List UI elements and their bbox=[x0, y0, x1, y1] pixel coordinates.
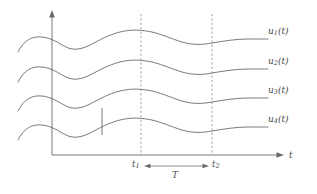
curve-label-u2-arg: (t) bbox=[278, 56, 289, 66]
curve-label-u3-arg: (t) bbox=[278, 85, 289, 95]
curve-label-u4: u4(t) bbox=[268, 115, 289, 125]
period-span-arrowhead-right bbox=[203, 164, 210, 168]
curve-label-u1: u1(t) bbox=[268, 27, 289, 37]
signal-waveform-figure: u1(t) u2(t) u3(t) u4(t) t1 t2 T t bbox=[0, 0, 317, 194]
tick-label-t1-sub: 1 bbox=[135, 162, 139, 170]
x-axis-label: t bbox=[289, 151, 293, 160]
tick-label-t1: t1 bbox=[132, 160, 140, 170]
signal-curve-u4 bbox=[18, 118, 268, 140]
x-axis-arrowhead bbox=[277, 152, 285, 157]
signal-curve-u3 bbox=[18, 89, 268, 111]
curve-label-u1-arg: (t) bbox=[278, 26, 289, 36]
curve-label-u3: u3(t) bbox=[268, 86, 289, 96]
tick-label-t2-sub: 2 bbox=[215, 162, 219, 170]
curve-label-u4-arg: (t) bbox=[278, 114, 289, 124]
period-label: T bbox=[172, 171, 178, 180]
curve-label-u2: u2(t) bbox=[268, 57, 289, 67]
y-axis-arrowhead bbox=[49, 10, 55, 18]
tick-label-t2: t2 bbox=[212, 160, 220, 170]
signal-curve-u1 bbox=[18, 30, 268, 52]
signal-curve-u2 bbox=[18, 60, 268, 82]
period-span-arrowhead-left bbox=[144, 164, 151, 168]
